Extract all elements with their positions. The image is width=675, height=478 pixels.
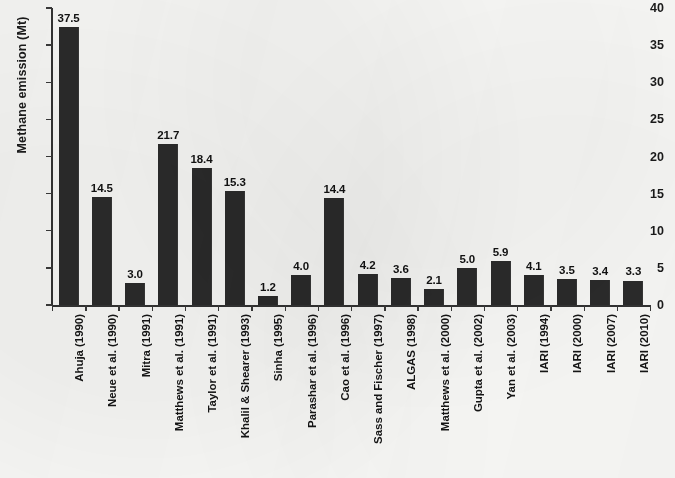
bar-value-label: 1.2 (260, 281, 276, 293)
bar-value-label: 14.4 (323, 183, 345, 195)
x-axis-category-label: Matthews et al. (2000) (439, 314, 451, 431)
x-tick-mark (417, 305, 418, 311)
bar (524, 275, 544, 305)
x-axis-category-label: Cao et al. (1996) (339, 314, 351, 401)
bar-value-label: 21.7 (157, 129, 179, 141)
bar (125, 283, 145, 305)
y-tick-label: 5 (657, 261, 664, 275)
y-tick-label: 10 (650, 224, 664, 238)
bar (92, 197, 112, 305)
bar-value-label: 3.3 (626, 265, 642, 277)
bar (623, 281, 643, 306)
bar-value-label: 4.1 (526, 260, 542, 272)
x-axis-category-label: Mitra (1991) (140, 314, 152, 377)
x-tick-mark (384, 305, 385, 311)
bar-value-label: 5.9 (493, 246, 509, 258)
x-axis-category-label: ALGAS (1998) (405, 314, 417, 390)
bar-value-label: 3.4 (592, 265, 608, 277)
bar-value-label: 3.0 (127, 268, 143, 280)
x-tick-mark (318, 305, 319, 311)
bar (324, 198, 344, 305)
y-axis-title: Methane emission (Mt) (15, 0, 29, 180)
bar (491, 261, 511, 305)
y-tick-label: 35 (650, 38, 664, 52)
x-tick-mark (584, 305, 585, 311)
y-tick-label: 15 (650, 187, 664, 201)
x-tick-mark (351, 305, 352, 311)
x-axis-category-label: Taylor et al. (1991) (206, 314, 218, 413)
bar-value-label: 37.5 (58, 12, 80, 24)
y-tick-label: 20 (650, 150, 664, 164)
x-tick-mark (617, 305, 618, 311)
bar (158, 144, 178, 305)
bar (557, 279, 577, 305)
y-tick-label: 40 (650, 1, 664, 15)
x-axis-category-label: IARI (2010) (638, 314, 650, 373)
bar-value-label: 5.0 (459, 253, 475, 265)
x-tick-mark (285, 305, 286, 311)
bar-value-label: 2.1 (426, 274, 442, 286)
bar (424, 289, 444, 305)
bar-value-label: 3.5 (559, 264, 575, 276)
plot-area (52, 8, 650, 305)
x-axis-category-label: IARI (2007) (605, 314, 617, 373)
x-axis-category-label: Ahuja (1990) (73, 314, 85, 382)
x-tick-mark (550, 305, 551, 311)
x-tick-mark (185, 305, 186, 311)
bar-value-label: 4.2 (360, 259, 376, 271)
bar-value-label: 18.4 (191, 153, 213, 165)
x-tick-mark (52, 305, 53, 311)
x-axis-category-label: Yan et al. (2003) (505, 314, 517, 399)
x-axis-category-label: IARI (2000) (571, 314, 583, 373)
x-tick-mark (152, 305, 153, 311)
x-tick-mark (85, 305, 86, 311)
bar (225, 191, 245, 305)
x-axis-category-label: Matthews et al. (1991) (173, 314, 185, 431)
x-axis-category-label: IARI (1994) (538, 314, 550, 373)
y-tick-label: 0 (657, 298, 664, 312)
x-tick-mark (484, 305, 485, 311)
methane-emission-bar-chart: Methane emission (Mt) 0510152025303540 A… (0, 0, 675, 478)
x-tick-mark (451, 305, 452, 311)
x-axis-category-label: Sass and Fischer (1997) (372, 314, 384, 444)
y-tick-label: 30 (650, 75, 664, 89)
bar (391, 278, 411, 305)
x-axis-category-label: Gupta et al. (2002) (472, 314, 484, 412)
bar (590, 280, 610, 305)
bar (258, 296, 278, 305)
x-tick-mark (218, 305, 219, 311)
x-tick-mark (251, 305, 252, 311)
x-axis-category-label: Sinha (1995) (272, 314, 284, 381)
bar-value-label: 3.6 (393, 263, 409, 275)
x-axis-category-label: Khalil & Shearer (1993) (239, 314, 251, 438)
bar (291, 275, 311, 305)
bar (59, 27, 79, 305)
x-tick-mark (650, 305, 651, 311)
bar (457, 268, 477, 305)
x-tick-mark (118, 305, 119, 311)
bar-value-label: 4.0 (293, 260, 309, 272)
bar-value-label: 14.5 (91, 182, 113, 194)
y-tick-label: 25 (650, 112, 664, 126)
x-axis-category-label: Parashar et al. (1996) (306, 314, 318, 428)
x-tick-mark (517, 305, 518, 311)
bar-value-label: 15.3 (224, 176, 246, 188)
bar (192, 168, 212, 305)
x-axis-category-label: Neue et al. (1990) (106, 314, 118, 407)
bar (358, 274, 378, 305)
